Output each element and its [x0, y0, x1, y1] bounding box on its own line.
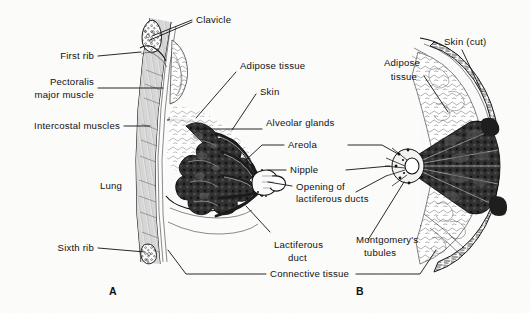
label-areola: Areola	[288, 139, 317, 150]
label-nipple: Nipple	[290, 164, 318, 175]
label-lactiferous-duct-line2: duct	[288, 252, 307, 263]
label-lung: Lung	[100, 180, 122, 191]
label-lactiferous-duct-line1: Lactiferous	[274, 239, 323, 250]
label-first-rib: First rib	[60, 50, 94, 61]
label-adipose-tissue-right-line2: tissue	[391, 71, 417, 82]
label-opening-of-lactiferous-ducts-line2: lactiferous ducts	[296, 193, 369, 204]
nipple-b	[405, 158, 419, 174]
label-connective-tissue: Connective tissue	[270, 268, 349, 279]
label-adipose-tissue-left: Adipose tissue	[240, 60, 305, 71]
panel-label-a: A	[109, 285, 117, 297]
sixth-rib-structure	[141, 244, 157, 264]
label-intercostal-muscles: Intercostal muscles	[34, 120, 120, 131]
label-clavicle: Clavicle	[196, 14, 231, 25]
label-skin-cut: Skin (cut)	[444, 36, 487, 47]
label-sixth-rib: Sixth rib	[58, 242, 94, 253]
label-adipose-tissue-right-line1: Adipose	[384, 57, 420, 68]
label-montgomerys-tubules-line2: tubules	[364, 247, 396, 258]
breast-anatomy-figure: Clavicle First rib Pectoralis major musc…	[0, 0, 530, 313]
label-pectoralis-major-muscle-line2: major muscle	[35, 89, 94, 100]
panel-label-b: B	[356, 285, 364, 297]
label-pectoralis-major-muscle-line1: Pectoralis	[50, 76, 94, 87]
label-opening-of-lactiferous-ducts-line1: Opening of	[296, 181, 345, 192]
label-montgomerys-tubules-line1: Montgomery's	[356, 234, 418, 245]
label-skin: Skin	[260, 86, 279, 97]
label-alveolar-glands: Alveolar glands	[266, 117, 335, 128]
